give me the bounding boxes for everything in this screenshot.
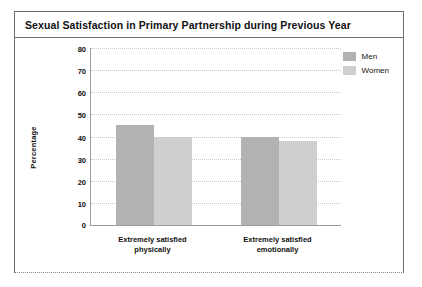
x-axis-labels: Extremely satisfiedphysicallyExtremely s… bbox=[90, 235, 340, 255]
y-axis-tick-label: 0 bbox=[82, 221, 86, 230]
figure-header: Sexual Satisfaction in Primary Partnersh… bbox=[15, 12, 403, 38]
y-axis-tick-label: 10 bbox=[78, 199, 86, 208]
legend-swatch-icon bbox=[343, 66, 356, 75]
x-axis-category-line: Extremely satisfied bbox=[90, 235, 215, 245]
bar-men[interactable] bbox=[241, 137, 279, 226]
legend: MenWomen bbox=[343, 52, 389, 75]
legend-label: Women bbox=[362, 66, 389, 75]
x-axis-category-line: emotionally bbox=[215, 245, 340, 255]
legend-swatch-icon bbox=[343, 52, 356, 61]
chart-area: Percentage 80706050403020100 Extremely s… bbox=[15, 38, 403, 273]
y-axis-tick-label: 40 bbox=[78, 133, 86, 142]
bar-women[interactable] bbox=[279, 141, 317, 225]
y-axis-tick-label: 30 bbox=[78, 155, 86, 164]
y-axis-tick-label: 70 bbox=[78, 67, 86, 76]
y-axis-tick-label: 60 bbox=[78, 89, 86, 98]
x-axis-category-line: physically bbox=[90, 245, 215, 255]
bar-group bbox=[91, 48, 216, 225]
bar-women[interactable] bbox=[154, 137, 192, 226]
figure-panel: Sexual Satisfaction in Primary Partnersh… bbox=[14, 11, 404, 273]
x-axis-category-line: Extremely satisfied bbox=[215, 235, 340, 245]
legend-item[interactable]: Women bbox=[343, 66, 389, 75]
legend-item[interactable]: Men bbox=[343, 52, 389, 61]
y-axis-tick-label: 50 bbox=[78, 111, 86, 120]
bar-groups bbox=[91, 48, 341, 225]
plot-area: 80706050403020100 bbox=[90, 48, 341, 226]
legend-label: Men bbox=[362, 52, 378, 61]
x-axis-category-label: Extremely satisfiedemotionally bbox=[215, 235, 340, 255]
bar-group bbox=[216, 48, 341, 225]
y-axis-tick-label: 80 bbox=[78, 45, 86, 54]
y-axis-tick-label: 20 bbox=[78, 177, 86, 186]
x-axis-category-label: Extremely satisfiedphysically bbox=[90, 235, 215, 255]
y-axis-title: Percentage bbox=[29, 108, 38, 188]
bar-men[interactable] bbox=[116, 125, 154, 225]
page-title: Sexual Satisfaction in Primary Partnersh… bbox=[25, 19, 351, 31]
